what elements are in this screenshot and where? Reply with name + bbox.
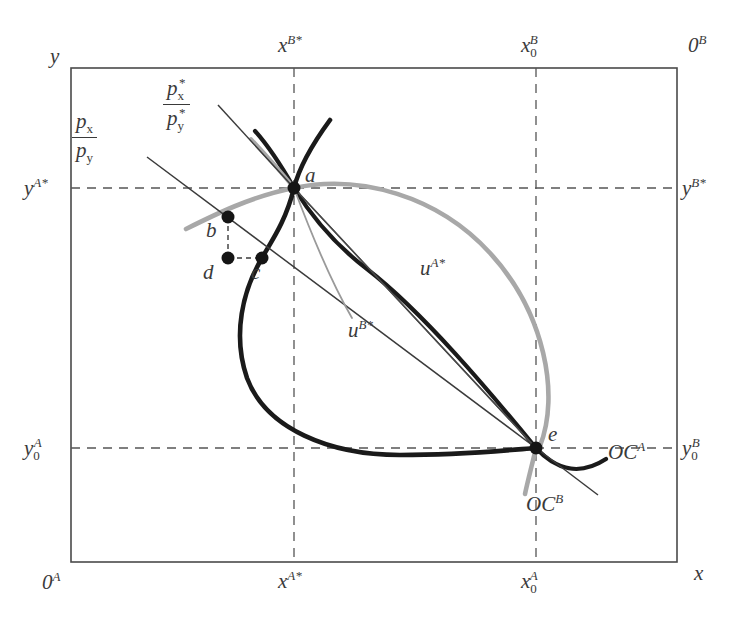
tick-y0-A-base: y <box>24 436 33 460</box>
pre-num-base: p <box>167 76 178 100</box>
price-ratio-eq-numerator: px* <box>163 76 190 105</box>
origin-A-base: 0 <box>42 570 53 594</box>
tick-x0-A-sup: A <box>530 568 538 583</box>
pre-den-star: * <box>179 105 186 120</box>
u-B-star-base: u <box>348 318 359 342</box>
price-ratio-initial-denominator: py <box>72 138 97 165</box>
tick-label-y-Astar: yA* <box>24 176 48 199</box>
tick-x0-B-base: x <box>521 33 530 57</box>
origin-A-label: 0A <box>42 570 60 593</box>
curve-label-OC-A: OCA <box>608 440 645 463</box>
point-label-d: d <box>203 262 214 283</box>
u-B-star-sup: B* <box>359 317 373 332</box>
tick-y0-A-sup: A <box>34 435 42 450</box>
tick-y-Bstar-sup: B* <box>691 175 705 190</box>
tick-label-x0-A: x0A <box>521 569 538 595</box>
tick-y0-B-base: y <box>682 436 691 460</box>
x-axis-label: x <box>694 563 703 584</box>
price-ratio-equilibrium-label: px* py* <box>163 76 190 133</box>
point-label-e: e <box>548 424 557 445</box>
origin-B-base: 0 <box>688 33 699 57</box>
pri-num-sub: x <box>87 121 94 136</box>
diagram-canvas <box>0 0 747 627</box>
chord-a-e <box>294 188 536 448</box>
origin-B-label: 0B <box>688 33 706 56</box>
price-line-initial <box>147 157 536 448</box>
price-ratio-initial-label: px py <box>72 110 97 165</box>
pre-den-base: p <box>167 106 178 130</box>
tick-y-Astar-base: y <box>24 176 33 200</box>
curve-label-u-B-star: uB* <box>348 318 373 341</box>
offer-curve-B-lower-extension <box>525 448 536 494</box>
price-line-initial-extension <box>536 448 598 495</box>
point-e-marker <box>530 442 543 455</box>
tick-label-x-Astar: xA* <box>278 569 302 592</box>
OC-A-base: OC <box>608 440 637 464</box>
pri-num-base: p <box>76 109 87 133</box>
tick-label-y0-B: y0B <box>682 436 700 462</box>
tick-y0-B-sup: B <box>692 435 700 450</box>
tick-y-Astar-sup: A* <box>33 175 47 190</box>
point-label-b: b <box>206 220 217 241</box>
tick-x-Astar-sup: A* <box>287 568 301 583</box>
point-b-marker <box>222 211 235 224</box>
tick-label-x-Bstar: xB* <box>278 33 302 56</box>
pre-num-sub: x <box>178 88 185 103</box>
origin-B-sup: B <box>699 32 707 47</box>
leader-line-u-B-star <box>294 188 352 318</box>
price-line-equilibrium <box>218 105 294 188</box>
tick-y-Bstar-base: y <box>682 176 691 200</box>
pre-den-sub: y <box>178 118 185 133</box>
pri-den-sub: y <box>87 150 94 165</box>
tick-x0-B-sup: B <box>530 32 538 47</box>
price-ratio-initial-numerator: px <box>72 110 97 138</box>
tick-x-Bstar-base: x <box>278 33 287 57</box>
tick-x0-A-sub: 0 <box>530 581 537 596</box>
tick-y0-B-sub: 0 <box>691 448 698 463</box>
point-label-c: c <box>251 262 260 283</box>
OC-B-base: OC <box>526 492 555 516</box>
tick-label-x0-B: x0B <box>521 33 538 59</box>
curve-label-u-A-star: uA* <box>420 256 445 279</box>
pri-den-base: p <box>76 138 87 162</box>
tick-x-Astar-base: x <box>278 569 287 593</box>
y-axis-label: y <box>50 46 59 67</box>
tick-y0-A-sub: 0 <box>33 448 40 463</box>
tick-x0-A-base: x <box>521 569 530 593</box>
point-label-a: a <box>305 165 316 186</box>
tick-label-y0-A: y0A <box>24 436 42 462</box>
edgeworth-box-figure: y x 0A 0B xB* x0B xA* x0A yA* y0A yB* y0… <box>0 0 747 627</box>
u-A-star-sup: A* <box>431 255 445 270</box>
price-ratio-eq-denominator: py* <box>163 105 190 133</box>
point-d-marker <box>222 252 235 265</box>
pre-num-star: * <box>179 75 186 90</box>
edgeworth-box-border <box>71 68 677 562</box>
u-A-star-base: u <box>420 256 431 280</box>
curve-label-OC-B: OCB <box>526 492 563 515</box>
point-a-marker <box>288 182 301 195</box>
OC-B-sup: B <box>555 491 563 506</box>
tick-x-Bstar-sup: B* <box>287 32 301 47</box>
origin-A-sup: A <box>53 569 61 584</box>
tick-label-y-Bstar: yB* <box>682 176 706 199</box>
tick-x0-B-sub: 0 <box>530 45 537 60</box>
OC-A-sup: A <box>637 439 645 454</box>
